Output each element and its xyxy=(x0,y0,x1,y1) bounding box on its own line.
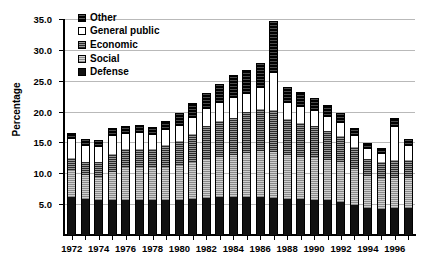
bar-segment-social xyxy=(323,160,332,201)
bar-segment-economic xyxy=(108,154,117,172)
x-axis-tick-mark xyxy=(193,236,194,240)
bar-1990 xyxy=(310,98,319,235)
bar-segment-general-public xyxy=(81,146,90,162)
bar-1973 xyxy=(81,139,90,235)
bar-segment-defense xyxy=(81,199,90,235)
bar-segment-other xyxy=(390,118,399,127)
bar-1978 xyxy=(148,127,157,235)
x-axis-tick-label: 1974 xyxy=(88,243,109,254)
bar-segment-defense xyxy=(121,200,130,235)
legend-item-economic[interactable]: Economic xyxy=(78,38,159,52)
x-axis-tick-mark xyxy=(72,236,73,240)
bar-segment-general-public xyxy=(363,149,372,158)
x-axis-tick-label: 1984 xyxy=(223,243,244,254)
bar-segment-social xyxy=(81,175,90,198)
y-axis-tick-label: 15.0 xyxy=(22,137,52,148)
x-axis-tick-label: 1990 xyxy=(303,243,324,254)
bar-segment-social xyxy=(296,157,305,200)
bar-segment-other xyxy=(94,140,103,147)
bar-segment-social xyxy=(229,155,238,197)
x-axis-tick-label: 1994 xyxy=(357,243,378,254)
legend: OtherGeneral publicEconomicSocialDefense xyxy=(78,11,159,79)
bar-segment-general-public xyxy=(67,139,76,158)
bar-segment-general-public xyxy=(215,103,224,122)
x-axis-tick-mark xyxy=(153,236,154,240)
bar-segment-social xyxy=(215,157,224,197)
bar-segment-defense xyxy=(229,197,238,235)
bar-segment-economic xyxy=(404,160,413,178)
bar-segment-economic xyxy=(94,162,103,177)
bar-segment-social xyxy=(94,177,103,200)
bar-segment-other xyxy=(323,105,332,117)
bar-segment-general-public xyxy=(269,73,278,109)
bar-segment-social xyxy=(404,178,413,209)
bar-segment-other xyxy=(296,92,305,106)
bar-1979 xyxy=(161,121,170,235)
legend-item-general-public[interactable]: General public xyxy=(78,25,159,39)
bar-1982 xyxy=(202,93,211,235)
bar-segment-social xyxy=(67,170,76,197)
bar-segment-economic xyxy=(256,109,265,152)
x-axis-tick-mark xyxy=(408,236,409,240)
bar-segment-social xyxy=(108,172,117,200)
legend-item-social[interactable]: Social xyxy=(78,52,159,66)
bar-segment-general-public xyxy=(161,130,170,145)
legend-item-other[interactable]: Other xyxy=(78,11,159,25)
bar-1989 xyxy=(296,92,305,235)
x-axis-tick-label: 1986 xyxy=(250,243,271,254)
x-axis-tick-mark xyxy=(341,236,342,240)
x-axis-tick-mark xyxy=(126,236,127,240)
bar-segment-defense xyxy=(296,199,305,235)
x-axis-tick-mark xyxy=(260,236,261,240)
bar-segment-other xyxy=(148,127,157,135)
legend-swatch-icon xyxy=(78,14,86,22)
bar-1984 xyxy=(229,75,238,235)
bar-segment-economic xyxy=(310,126,319,157)
bar-segment-economic xyxy=(229,118,238,155)
y-axis-tick-label: 25.0 xyxy=(22,75,52,86)
bar-segment-defense xyxy=(175,200,184,235)
x-axis-tick-mark xyxy=(139,236,140,240)
bar-1992 xyxy=(336,113,345,235)
bar-1977 xyxy=(135,125,144,235)
bar-segment-other xyxy=(108,128,117,135)
bar-segment-general-public xyxy=(296,107,305,123)
bar-1996 xyxy=(390,118,399,235)
bar-1997 xyxy=(404,139,413,235)
x-axis-tick-mark xyxy=(206,236,207,240)
x-axis-tick-mark xyxy=(85,236,86,240)
bar-segment-other xyxy=(336,113,345,123)
legend-item-defense[interactable]: Defense xyxy=(78,65,159,79)
bar-segment-defense xyxy=(323,200,332,235)
bar-segment-defense xyxy=(390,208,399,235)
x-axis-tick-mark xyxy=(301,236,302,240)
bar-1985 xyxy=(242,70,251,235)
legend-swatch-icon xyxy=(78,27,86,35)
bar-segment-other xyxy=(256,63,265,87)
bar-segment-economic xyxy=(121,149,130,167)
bar-segment-economic xyxy=(390,160,399,177)
x-axis-tick-mark xyxy=(274,236,275,240)
x-axis-tick-label: 1988 xyxy=(277,243,298,254)
bar-segment-economic xyxy=(296,123,305,157)
bar-segment-economic xyxy=(336,136,345,162)
y-axis-title: Percentage xyxy=(11,70,22,150)
bar-segment-social xyxy=(148,167,157,200)
bar-1993 xyxy=(350,128,359,235)
bar-segment-general-public xyxy=(148,135,157,149)
bar-segment-general-public xyxy=(323,117,332,131)
legend-label: Social xyxy=(90,54,119,64)
x-axis-tick-label: 1980 xyxy=(169,243,190,254)
bar-segment-social xyxy=(121,167,130,201)
bar-segment-defense xyxy=(336,202,345,235)
bar-segment-general-public xyxy=(404,146,413,160)
bar-segment-other xyxy=(202,93,211,109)
x-axis-tick-mark xyxy=(381,236,382,240)
legend-label: Other xyxy=(90,13,117,23)
bar-segment-other xyxy=(350,128,359,137)
bar-segment-other xyxy=(121,126,130,133)
bar-segment-other xyxy=(242,70,251,93)
bar-segment-economic xyxy=(215,121,224,157)
x-axis-tick-label: 1992 xyxy=(330,243,351,254)
bar-segment-general-public xyxy=(94,147,103,162)
